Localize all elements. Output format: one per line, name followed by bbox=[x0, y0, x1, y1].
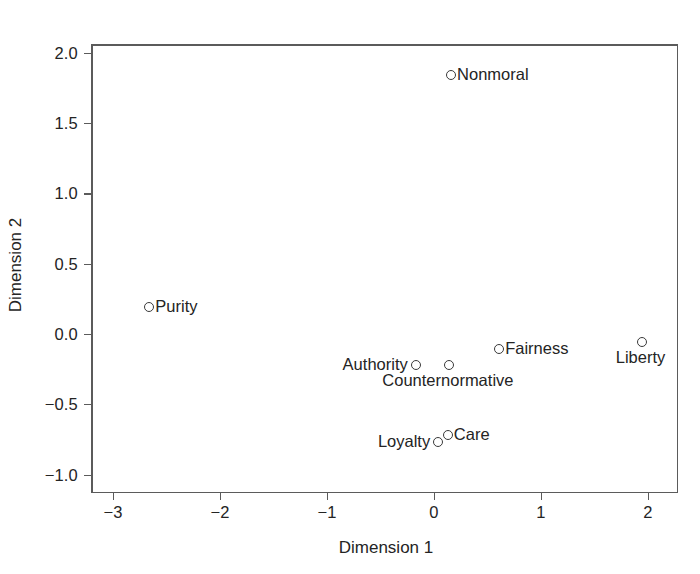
y-axis-tick-label: 2.0 bbox=[8, 44, 78, 63]
y-axis-tick bbox=[84, 334, 91, 335]
x-axis-tick-label: −1 bbox=[297, 503, 357, 522]
data-point-label: Care bbox=[454, 426, 490, 443]
x-axis-tick bbox=[113, 493, 114, 500]
x-axis-tick bbox=[220, 493, 221, 500]
y-axis-tick-label: −0.5 bbox=[8, 395, 78, 414]
y-axis-tick bbox=[84, 193, 91, 194]
y-axis-title-text: Dimension 2 bbox=[6, 218, 25, 313]
data-point-marker[interactable] bbox=[433, 437, 443, 447]
y-axis-tick bbox=[84, 123, 91, 124]
x-axis-tick bbox=[541, 493, 542, 500]
x-axis-tick-label: 0 bbox=[404, 503, 464, 522]
data-point-label: Fairness bbox=[505, 340, 568, 357]
x-axis-tick bbox=[327, 493, 328, 500]
y-axis-tick bbox=[84, 264, 91, 265]
x-axis-title-text: Dimension 1 bbox=[267, 538, 434, 557]
y-axis-tick bbox=[84, 53, 91, 54]
y-axis-tick-label: 1.5 bbox=[8, 114, 78, 133]
zero-line-vertical bbox=[92, 45, 93, 492]
plot-area bbox=[91, 44, 678, 493]
y-axis-tick-label: −1.0 bbox=[8, 466, 78, 485]
data-point-marker[interactable] bbox=[443, 430, 453, 440]
data-point-label: Counternormative bbox=[382, 372, 513, 389]
data-point-label: Authority bbox=[343, 355, 408, 372]
x-axis-tick-label: −2 bbox=[190, 503, 250, 522]
y-axis-tick bbox=[84, 475, 91, 476]
y-axis-title: Dimension 2 bbox=[6, 205, 26, 325]
x-axis-tick bbox=[434, 493, 435, 500]
scatter-plot-figure: −3−2−10122.01.51.00.50.0−0.5−1.0 Nonmora… bbox=[0, 0, 700, 574]
y-axis-tick bbox=[84, 404, 91, 405]
data-point-marker[interactable] bbox=[444, 360, 454, 370]
x-axis-tick bbox=[648, 493, 649, 500]
x-axis-tick-label: 1 bbox=[511, 503, 571, 522]
data-point-label: Purity bbox=[155, 298, 197, 315]
x-axis-tick-label: −3 bbox=[83, 503, 143, 522]
y-axis-tick-label: 0.0 bbox=[8, 325, 78, 344]
data-point-label: Liberty bbox=[616, 349, 666, 366]
data-point-marker[interactable] bbox=[144, 302, 154, 312]
data-point-label: Nonmoral bbox=[457, 66, 529, 83]
data-point-marker[interactable] bbox=[411, 360, 421, 370]
x-axis-title: Dimension 1 bbox=[0, 538, 700, 558]
x-axis-tick-label: 2 bbox=[618, 503, 678, 522]
data-point-marker[interactable] bbox=[637, 337, 647, 347]
zero-line-horizontal bbox=[92, 45, 677, 46]
data-point-marker[interactable] bbox=[494, 344, 504, 354]
data-point-marker[interactable] bbox=[446, 70, 456, 80]
data-point-label: Loyalty bbox=[378, 433, 430, 450]
y-axis-tick-label: 1.0 bbox=[8, 184, 78, 203]
